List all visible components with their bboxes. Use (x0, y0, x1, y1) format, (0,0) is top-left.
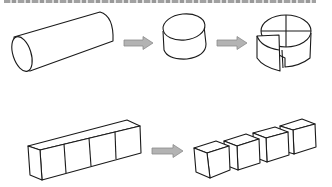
cube (194, 141, 230, 178)
arrow-icon (217, 37, 247, 50)
four-separated-cubes (194, 119, 316, 178)
short-cylinder (162, 12, 206, 59)
arrow-icon (124, 37, 153, 50)
arrow-icon (152, 145, 183, 158)
diagram-canvas (0, 0, 332, 187)
rectangular-prism-4-sections (28, 120, 141, 180)
long-cylinder (8, 12, 113, 74)
cylinder-cut-into-quarters (257, 15, 311, 71)
